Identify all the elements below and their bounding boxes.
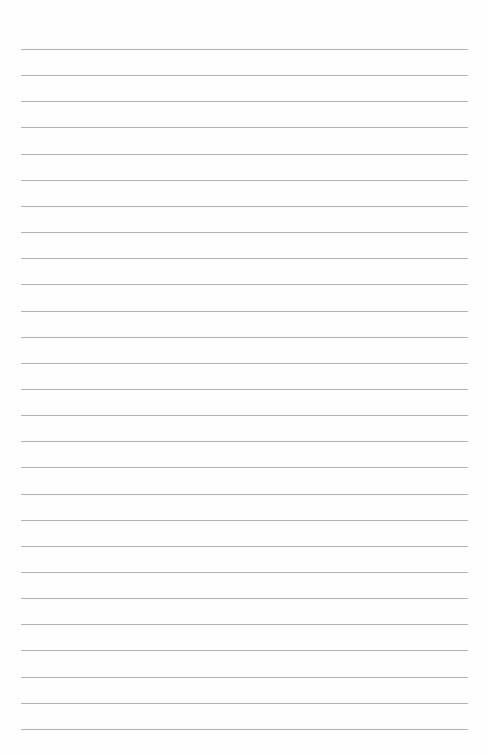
ruled-line <box>21 650 468 651</box>
ruled-line <box>21 180 468 181</box>
ruled-line <box>21 101 468 102</box>
ruled-line <box>21 258 468 259</box>
ruled-line <box>21 389 468 390</box>
ruled-line <box>21 729 468 730</box>
ruled-line <box>21 624 468 625</box>
ruled-line <box>21 441 468 442</box>
ruled-line <box>21 206 468 207</box>
ruled-line <box>21 75 468 76</box>
ruled-line <box>21 572 468 573</box>
ruled-line <box>21 598 468 599</box>
ruled-line <box>21 232 468 233</box>
ruled-line <box>21 467 468 468</box>
ruled-line <box>21 284 468 285</box>
ruled-line <box>21 677 468 678</box>
ruled-line <box>21 154 468 155</box>
ruled-line <box>21 415 468 416</box>
ruled-line <box>21 703 468 704</box>
ruled-line <box>21 311 468 312</box>
ruled-line <box>21 337 468 338</box>
ruled-line <box>21 520 468 521</box>
ruled-line <box>21 127 468 128</box>
lined-paper-page <box>0 0 489 755</box>
ruled-line <box>21 546 468 547</box>
ruled-line <box>21 49 468 50</box>
ruled-line <box>21 363 468 364</box>
ruled-line <box>21 494 468 495</box>
